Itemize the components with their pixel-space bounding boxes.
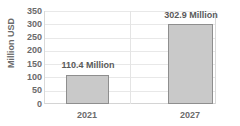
y-tick-label: 350 [14, 7, 42, 16]
category-divider [215, 11, 216, 104]
x-axis-tick-labels: 2021 2027 [44, 110, 216, 124]
x-tick-label-2027: 2027 [150, 110, 230, 121]
y-tick-label: 0 [14, 100, 42, 109]
y-tick-label: 300 [14, 20, 42, 29]
y-tick-label: 50 [14, 86, 42, 95]
bar-chart: Million USD 350 300 250 200 150 100 50 0… [0, 0, 240, 126]
bar-value-label-2021: 110.4 Million [48, 60, 128, 70]
y-tick-label: 150 [14, 60, 42, 69]
x-tick-label-2021: 2021 [47, 110, 127, 121]
category-divider [44, 11, 45, 104]
y-tick-label: 250 [14, 33, 42, 42]
bar-value-label-2027: 302.9 Million [151, 10, 231, 20]
y-axis-tick-labels: 350 300 250 200 150 100 50 0 [14, 0, 42, 126]
bar-2021 [66, 75, 109, 104]
plot-area: 110.4 Million 302.9 Million [44, 11, 216, 104]
y-tick-label: 100 [14, 73, 42, 82]
y-tick-label: 200 [14, 46, 42, 55]
bar-2027 [168, 24, 213, 104]
category-divider [130, 11, 131, 104]
